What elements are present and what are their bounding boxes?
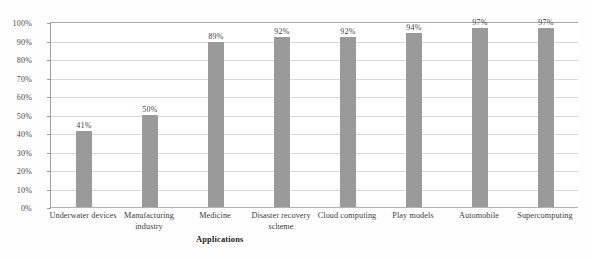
y-axis-tick-label: 90%	[0, 37, 32, 46]
x-axis-category-label: Disaster recovery scheme	[245, 211, 317, 232]
bar-slot: 94%	[381, 22, 447, 207]
y-axis-tick-label: 100%	[0, 19, 32, 28]
bar-value-label: 92%	[340, 27, 355, 36]
y-axis-tick-label: 30%	[0, 148, 32, 157]
y-axis-tick-label: 50%	[0, 111, 32, 120]
bar[interactable]: 97%	[538, 28, 554, 207]
bar-value-label: 97%	[538, 18, 553, 27]
y-axis-tick-label: 70%	[0, 74, 32, 83]
plot-area: 0%10%20%30%40%50%60%70%80%90%100%41%50%8…	[50, 22, 578, 208]
x-axis-category-label: Cloud computing	[311, 211, 383, 222]
bar-slot: 92%	[249, 22, 315, 207]
y-axis-tick-mark	[47, 208, 51, 209]
x-axis-category-label: Automobile	[443, 211, 515, 222]
bar-value-label: 41%	[76, 121, 91, 130]
y-axis-tick-label: 40%	[0, 130, 32, 139]
bar-slot: 97%	[513, 22, 579, 207]
x-axis-category-label: Underwater devices	[47, 211, 119, 222]
x-axis-category-label: Supercomputing	[509, 211, 581, 222]
x-axis-title: Applications	[196, 235, 244, 244]
bar-slot: 89%	[183, 22, 249, 207]
y-axis-tick-label: 80%	[0, 56, 32, 65]
x-axis-category-label: Play models	[377, 211, 449, 222]
y-axis-tick-label: 10%	[0, 185, 32, 194]
x-axis-baseline	[51, 207, 578, 208]
bar-value-label: 97%	[472, 18, 487, 27]
bar-value-label: 89%	[208, 32, 223, 41]
x-axis-category-label: Manufacturing industry	[113, 211, 185, 232]
bar-slot: 41%	[51, 22, 117, 207]
bar[interactable]: 89%	[208, 42, 224, 207]
bar-chart: 0%10%20%30%40%50%60%70%80%90%100%41%50%8…	[0, 0, 592, 259]
bar[interactable]: 97%	[472, 28, 488, 207]
bar-slot: 50%	[117, 22, 183, 207]
bar[interactable]: 41%	[76, 131, 92, 207]
bar[interactable]: 94%	[406, 33, 422, 207]
bar-value-label: 92%	[274, 27, 289, 36]
x-axis-category-label: Medicine	[179, 211, 251, 222]
bar[interactable]: 92%	[340, 37, 356, 207]
bar[interactable]: 92%	[274, 37, 290, 207]
y-axis-tick-label: 0%	[0, 204, 32, 213]
bar-value-label: 94%	[406, 23, 421, 32]
bar-value-label: 50%	[142, 105, 157, 114]
bar-slot: 92%	[315, 22, 381, 207]
y-axis-tick-label: 60%	[0, 93, 32, 102]
bar-slot: 97%	[447, 22, 513, 207]
bar[interactable]: 50%	[142, 115, 158, 208]
y-axis-tick-label: 20%	[0, 167, 32, 176]
